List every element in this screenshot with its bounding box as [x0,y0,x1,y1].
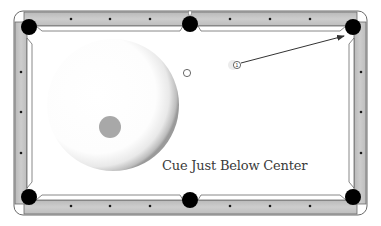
top-right-cushion [198,26,346,31]
bottom-left-cushion [36,195,183,200]
pocket-top-right-icon [345,19,361,35]
pool-table-svg: 1 [0,0,381,226]
sight-dot-icon [360,71,363,74]
sight-dot-icon [229,18,232,21]
sight-dot-icon [109,18,112,21]
sight-dot-icon [229,205,232,208]
right-rail [354,22,366,204]
sight-dot-icon [149,18,152,21]
pocket-bottom-right-icon [345,189,361,205]
pocket-bottom-left-icon [21,189,37,205]
left-cushion [27,38,32,188]
sight-dot-icon [70,18,73,21]
pocket-top-left-icon [21,19,37,35]
bottom-right-cushion [198,195,346,200]
sight-dot-icon [70,205,73,208]
right-cushion [349,38,354,188]
sight-dot-icon [309,205,312,208]
cue-tip-spot-icon [99,116,121,138]
cue-ball-contact-illustration [47,39,179,171]
top-middle-notch [189,11,192,15]
top-left-cushion [36,26,183,31]
caption: Cue Just Below Center [162,158,307,173]
pocket-top-middle-icon [182,16,198,32]
pool-table-diagram: 1 Cue Just Below Center [0,0,381,226]
pocket-bottom-middle-icon [182,192,198,208]
sight-dot-icon [360,111,363,114]
cue-ball-icon [183,69,190,76]
sight-dot-icon [149,205,152,208]
sight-dot-icon [109,205,112,208]
sight-dot-icon [20,111,23,114]
sight-dot-icon [20,71,23,74]
sight-dot-icon [309,18,312,21]
sight-dot-icon [269,18,272,21]
sight-dot-icon [20,152,23,155]
object-ball-number: 1 [236,62,239,68]
sight-dot-icon [269,205,272,208]
sight-dot-icon [360,152,363,155]
